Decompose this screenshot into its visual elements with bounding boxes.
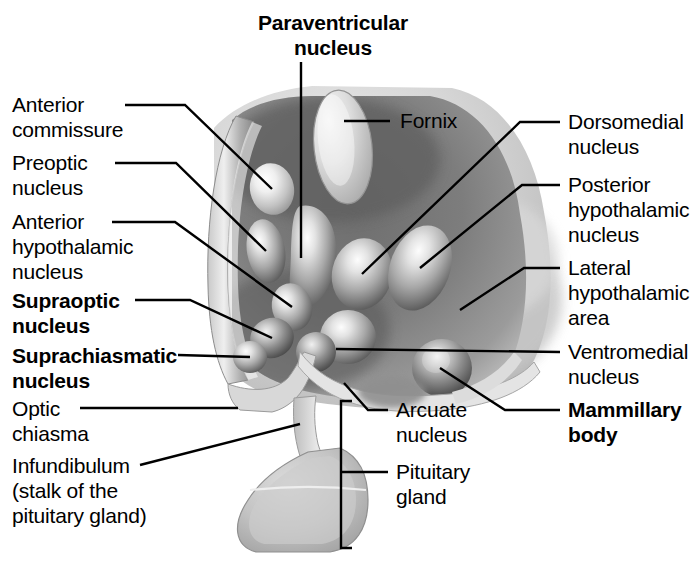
label-pituitary-gland: Pituitary gland [396,459,526,509]
pituitary-inner-shading [249,456,356,544]
label-lateral-hypothalamic-area: Lateral hypothalamic area [568,255,698,330]
label-anterior-commissure: Anterior commissure [12,92,182,142]
label-optic-chiasma: Optic chiasma [12,396,162,446]
label-preoptic-nucleus: Preoptic nucleus [12,150,182,200]
label-suprachiasmatic-nucleus: Suprachiasmatic nucleus [12,343,212,393]
label-anterior-hypothalamic-nucleus: Anterior hypothalamic nucleus [12,209,192,284]
label-supraoptic-nucleus: Supraoptic nucleus [12,288,202,338]
label-ventromedial-nucleus: Ventromedial nucleus [568,339,698,389]
hypothalamus-diagram: Paraventricular nucleus Anterior commiss… [0,0,699,561]
label-dorsomedial-nucleus: Dorsomedial nucleus [568,109,698,159]
label-mammillary-body: Mammillary body [568,397,698,447]
label-paraventricular-nucleus: Paraventricular nucleus [238,10,428,60]
suprachiasmatic-nucleus-structure [233,341,267,373]
mammillary-body-highlight [422,347,450,373]
label-arcuate-nucleus: Arcuate nucleus [396,397,526,447]
label-posterior-hypothalamic-nucleus: Posterior hypothalamic nucleus [568,172,698,247]
label-infundibulum: Infundibulum (stalk of the pituitary gla… [12,453,212,528]
label-fornix: Fornix [400,108,510,133]
